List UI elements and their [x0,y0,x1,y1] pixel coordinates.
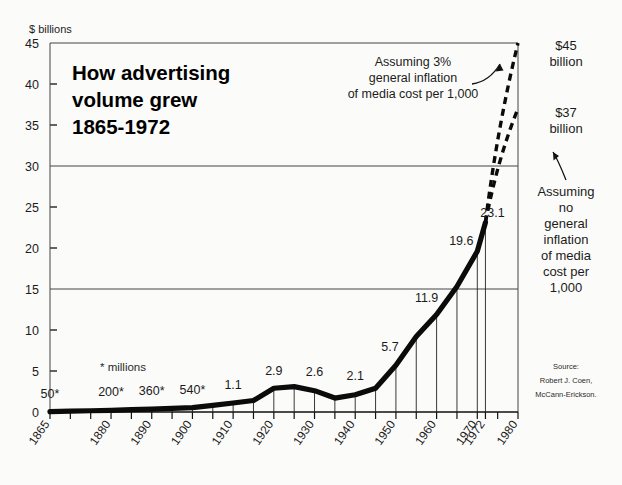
y-axis-unit-label: $ billions [29,23,72,35]
data-point-label: 2.1 [347,369,364,383]
source-line-2: Robert J. Coen, [540,376,593,385]
no-inflation-line-2: no [559,200,573,215]
y-axis-tick-label: 15 [25,283,39,297]
advertising-volume-chart: 510152025303540450 186518801890190019101… [0,0,622,485]
y-axis-tick-label: 30 [25,160,39,174]
y-axis-tick-label: 10 [25,324,39,338]
chart-title-line-1: How advertising [72,61,230,84]
no-inflation-line-1: Assuming [537,184,594,199]
y-axis-tick-label: 45 [25,37,39,51]
data-point-label: 200* [98,385,124,399]
second-value-line-1: $37 [555,105,577,120]
data-point-label: 360* [139,384,165,398]
y-axis-tick-label: 40 [25,78,39,92]
data-point-label: 19.6 [449,234,473,248]
top-value-line-1: $45 [555,38,577,53]
data-point-label: 11.9 [415,291,438,305]
chart-svg: 510152025303540450 186518801890190019101… [0,0,622,485]
no-inflation-line-3: general [544,216,587,231]
y-axis-tick-label: 5 [32,365,39,379]
inflation-note-line-2: general inflation [369,71,457,85]
data-point-label: 5.7 [381,340,398,354]
data-point-label: 1.1 [224,378,241,392]
no-inflation-line-4: inflation [544,232,589,247]
y-axis-tick-label: 35 [25,119,39,133]
y-axis-tick-label: 20 [25,242,39,256]
source-line-1: Source: [553,362,579,371]
chart-title-line-3: 1865-1972 [72,115,170,138]
second-value-line-2: billion [549,121,582,136]
no-inflation-line-7: 1,000 [550,280,583,295]
chart-title-line-2: volume grew [72,88,197,111]
data-point-label: 2.6 [306,365,323,379]
y-axis-tick-label: 25 [25,201,39,215]
no-inflation-line-6: cost per [543,264,590,279]
inflation-note-line-1: Assuming 3% [375,55,451,69]
top-value-line-2: billion [549,54,582,69]
inflation-note-line-3: of media cost per 1,000 [348,87,479,101]
no-inflation-line-5: of media [541,248,592,263]
source-line-3: McCann-Erickson. [535,390,596,399]
footnote-millions: * millions [100,361,146,373]
data-point-label: 23.1 [480,206,504,220]
y-axis-tick-label: 0 [32,406,39,420]
data-point-label: 50* [41,387,60,401]
data-point-label: 540* [180,383,206,397]
data-point-label: 2.9 [265,364,282,378]
